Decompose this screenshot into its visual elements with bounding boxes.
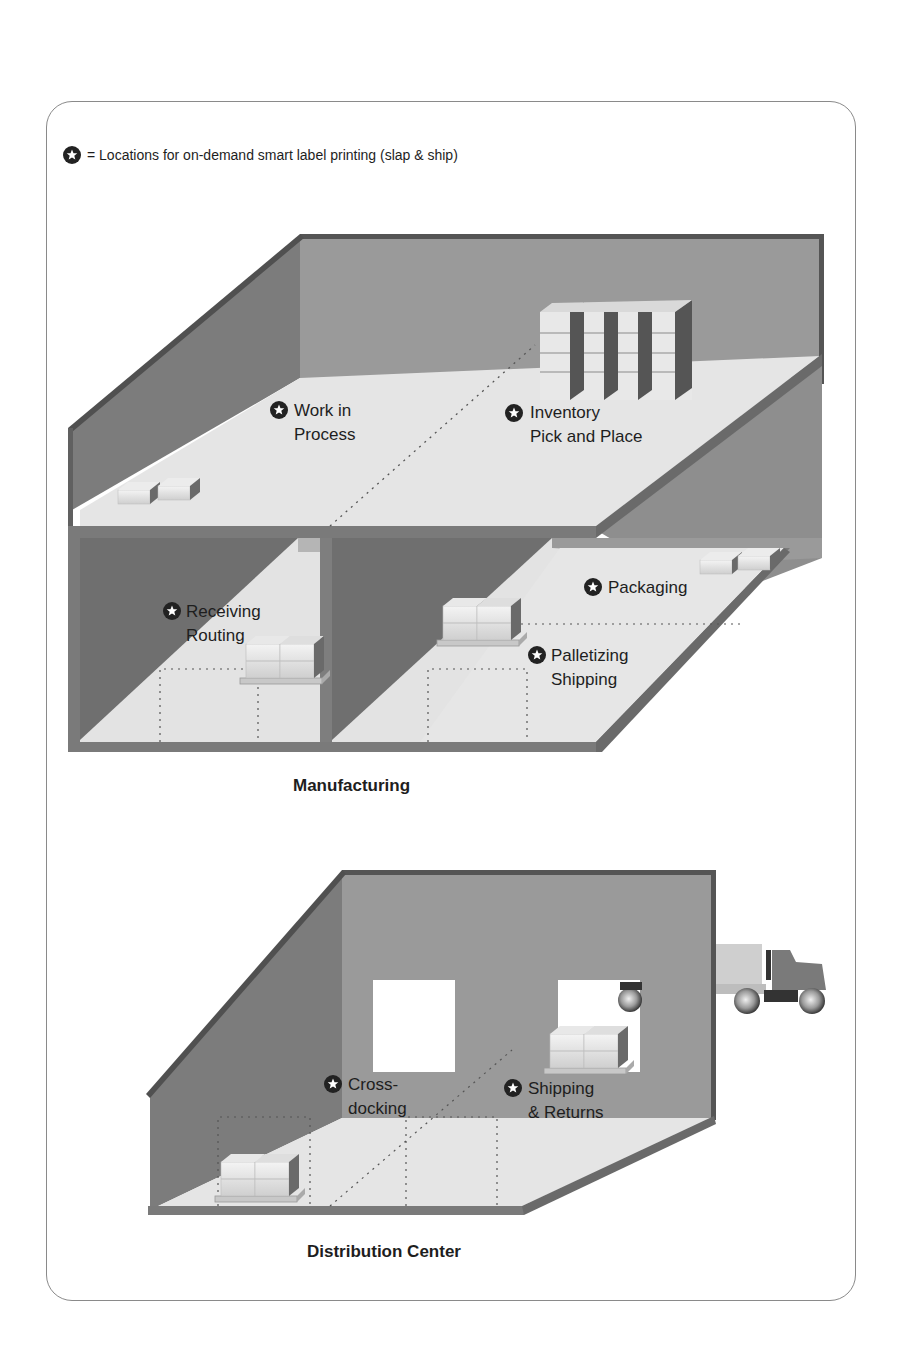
svg-text:Palletizing: Palletizing (551, 646, 629, 665)
manufacturing-building: Work in Process Inventory Pick and Place… (68, 234, 824, 795)
star-badge-icon (63, 146, 81, 164)
svg-text:& Returns: & Returns (528, 1103, 604, 1122)
legend-text: = Locations for on-demand smart label pr… (87, 147, 458, 163)
manufacturing-title: Manufacturing (293, 776, 410, 795)
svg-text:Shipping: Shipping (528, 1079, 594, 1098)
svg-text:Work in: Work in (294, 401, 351, 420)
svg-text:Shipping: Shipping (551, 670, 617, 689)
svg-text:Pick and Place: Pick and Place (530, 427, 642, 446)
svg-text:Inventory: Inventory (530, 403, 600, 422)
inventory-rack (540, 300, 692, 400)
svg-text:Receiving: Receiving (186, 602, 261, 621)
legend: = Locations for on-demand smart label pr… (63, 146, 458, 164)
svg-text:Routing: Routing (186, 626, 245, 645)
svg-text:Packaging: Packaging (608, 578, 687, 597)
svg-text:Cross-: Cross- (348, 1075, 398, 1094)
distribution-center-title: Distribution Center (307, 1242, 461, 1261)
svg-text:docking: docking (348, 1099, 407, 1118)
distribution-center-building: Cross- docking Shipping & Returns Distri… (146, 870, 826, 1261)
dock-door-1 (373, 980, 455, 1072)
svg-text:Process: Process (294, 425, 355, 444)
warehouse-diagram: = Locations for on-demand smart label pr… (0, 0, 901, 1357)
